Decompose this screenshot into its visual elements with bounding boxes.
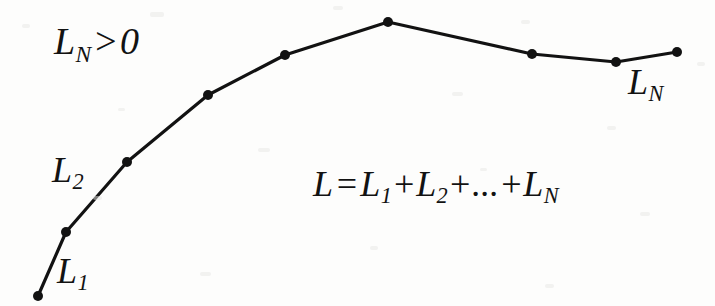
formula-termN-var: L [523,164,543,204]
label-ln-positive-relation: > [91,20,120,62]
label-segment-l2-var: L [52,150,72,190]
formula-term2-sub: 2 [436,183,448,208]
formula-ellipsis: ... [472,164,499,204]
polyline-vertex-8 [611,57,621,67]
polyline-vertex-9 [672,47,682,57]
label-ln-positive-value: 0 [120,20,139,62]
polyline-path [38,22,677,296]
label-segment-l1: L1 [57,253,89,289]
polyline-vertex-4 [203,90,213,100]
formula-plus-2: + [448,164,472,204]
label-segment-ln-sub: N [648,81,663,106]
polyline-vertex-6 [383,17,393,27]
polyline-vertex-1 [33,291,43,301]
figure-canvas: LN>0 L2 L1 LN L=L1+L2+...+LN [0,0,715,306]
formula-term1-var: L [360,164,380,204]
label-segment-ln: LN [628,64,663,100]
formula-termN-sub: N [543,183,558,208]
formula-plus-1: + [392,164,416,204]
polyline-vertex-7 [527,49,537,59]
label-segment-l1-var: L [57,251,77,291]
label-segment-l2: L2 [52,152,84,188]
polyline-vertex-5 [280,50,290,60]
formula-total-length: L=L1+L2+...+LN [313,166,559,202]
label-segment-l2-sub: 2 [72,169,84,194]
formula-equals-sign: = [333,164,360,204]
polyline-vertex-2 [61,227,71,237]
label-ln-positive: LN>0 [54,22,139,60]
formula-lhs: L [313,164,333,204]
label-ln-positive-sub: N [75,41,91,67]
polyline-vertex-3 [122,157,132,167]
label-segment-l1-sub: 1 [77,270,89,295]
formula-term1-sub: 1 [380,183,392,208]
label-segment-ln-var: L [628,62,648,102]
formula-plus-3: + [499,164,523,204]
formula-term2-var: L [416,164,436,204]
label-ln-positive-var: L [54,20,75,62]
